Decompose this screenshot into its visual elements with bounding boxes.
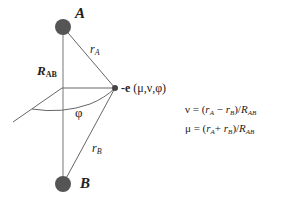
r-b-sub: B — [97, 147, 102, 156]
r-a-line — [63, 27, 115, 88]
r-b-label: rB — [92, 142, 102, 156]
nu-equation: ν = (rA − rB)/RAB — [185, 104, 256, 117]
r-ab-label: RAB — [37, 64, 57, 79]
eq-plus: + — [215, 122, 224, 134]
atom-b-label: B — [80, 176, 90, 191]
r-ab-base: R — [37, 63, 46, 78]
electron-coordinates: (μ,ν,φ) — [133, 81, 166, 95]
r-b-line — [63, 88, 115, 184]
atom-b-nucleus — [55, 176, 71, 192]
phi-label: φ — [75, 106, 83, 119]
eq-rab: R — [239, 122, 246, 134]
electron-dot — [112, 85, 118, 91]
electron-label: -e (μ,ν,φ) — [121, 82, 166, 94]
r-a-label: rA — [90, 43, 100, 57]
prolate-spheroidal-coordinates-diagram — [0, 0, 282, 203]
reference-plane-line — [13, 88, 62, 122]
eq-rab: R — [241, 103, 248, 115]
electron-charge: -e — [121, 81, 130, 95]
r-ab-sub: AB — [46, 70, 57, 79]
eq-open: = ( — [190, 103, 205, 115]
r-a-sub: A — [95, 48, 100, 57]
eq-open: = ( — [191, 122, 206, 134]
atom-a-label: A — [75, 6, 85, 21]
eq-close: )/ — [234, 103, 241, 115]
eq-minus: − — [214, 103, 226, 115]
mu-equation: μ = (rA+ rB)/RAB — [185, 123, 254, 136]
eq-rab-sub: AB — [248, 109, 257, 117]
atom-a-nucleus — [55, 19, 71, 35]
eq-rab-sub: AB — [246, 128, 255, 136]
phi-angle-arc — [32, 88, 115, 111]
